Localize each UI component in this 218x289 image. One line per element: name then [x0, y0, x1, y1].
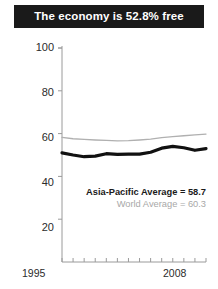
chart-legend: Asia-Pacific Average = 58.7 World Averag…	[70, 186, 206, 210]
data-series-group	[62, 134, 206, 157]
y-axis-ticks	[58, 48, 62, 219]
plot-area: 100 80 60 40 20 1995 2008 Asia-Pacific A…	[0, 0, 218, 289]
x-tick-start-label: 1995	[22, 268, 45, 279]
x-tick-end-label: 2008	[163, 268, 186, 279]
legend-asia-pacific-average: Asia-Pacific Average = 58.7	[70, 186, 206, 198]
series-line-world-average	[62, 134, 206, 141]
legend-world-average: World Average = 60.3	[70, 198, 206, 210]
chart-figure: The economy is 52.8% free 100 80 60 40 2…	[0, 0, 218, 289]
x-axis-ticks	[62, 258, 206, 262]
series-line-asia-pacific-average	[62, 146, 206, 156]
